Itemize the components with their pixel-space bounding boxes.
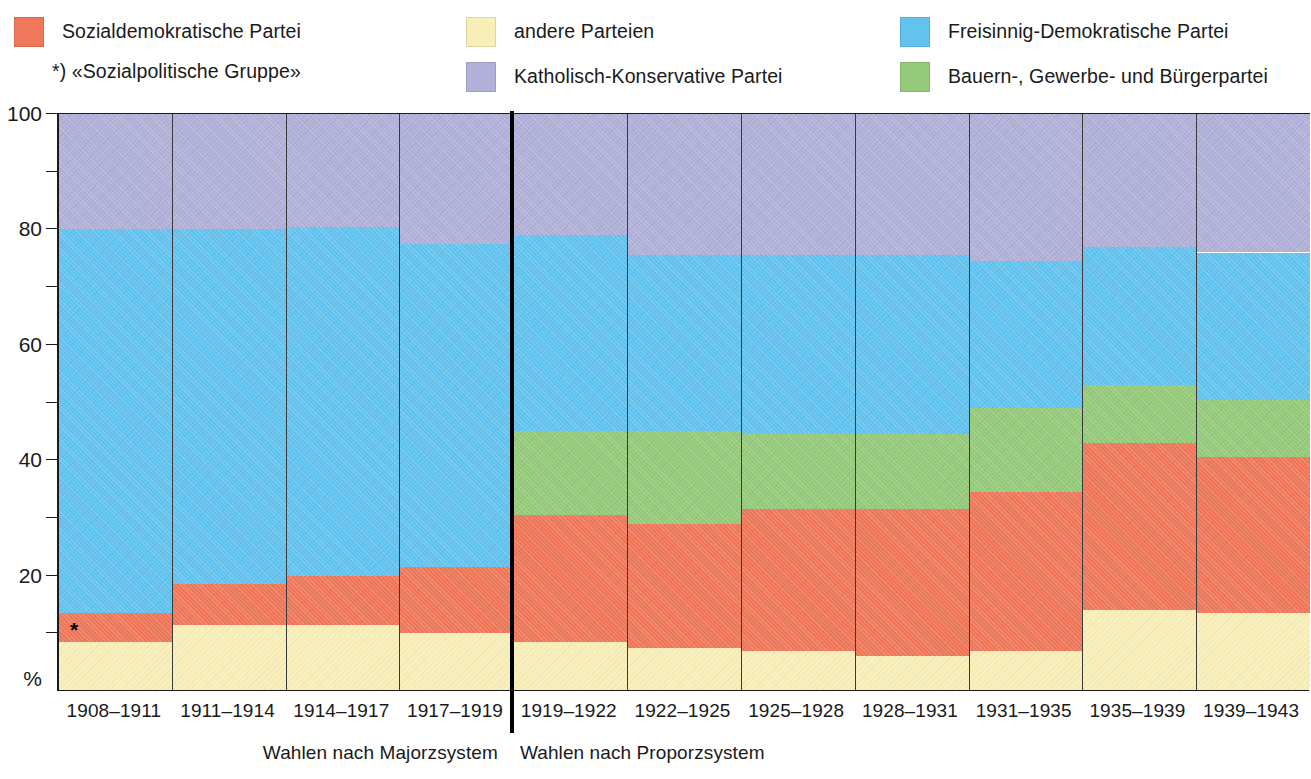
x-tick-label: 1911–1914 [171, 701, 285, 720]
chart-segment [856, 255, 969, 434]
chart-segment [1197, 613, 1310, 691]
y-tick-mark [46, 517, 57, 518]
chart-segment [1197, 114, 1310, 252]
x-tick-label: 1908–1911 [57, 701, 171, 720]
chart-segment [173, 584, 286, 624]
chart-segment [1083, 114, 1196, 247]
x-tick-label: 1931–1935 [967, 701, 1081, 720]
y-tick-label: 40 [0, 449, 42, 470]
y-tick-mark [46, 402, 57, 403]
chart-segment [1197, 253, 1310, 400]
y-tick-label: 20 [0, 565, 42, 586]
legend-label-bgb: Bauern-, Gewerbe- und Bürgerpartei [948, 67, 1268, 87]
chart-segment [628, 648, 741, 691]
legend-label-kk: Katholisch-Konservative Partei [514, 67, 783, 87]
chart-segment [287, 227, 400, 576]
chart-segment [59, 642, 172, 691]
chart-segment [1083, 443, 1196, 610]
chart-segment [628, 255, 741, 431]
chart-segment [970, 261, 1083, 408]
chart-segment [59, 114, 172, 229]
legend-swatch-sp [14, 17, 44, 47]
chart-segment [400, 567, 513, 633]
legend-item-andere-parteien: andere Parteien [466, 17, 654, 47]
y-tick-mark [46, 632, 57, 633]
chart-segment [970, 114, 1083, 261]
legend-swatch-fdp [900, 17, 930, 47]
y-tick-label: 100 [0, 103, 42, 124]
system-label-majorz: Wahlen nach Majorzsystem [263, 743, 510, 762]
chart-segment [970, 408, 1083, 492]
chart-segment [514, 431, 627, 515]
stacked-area-chart: 10080604020% 1908–19111911–19141914–1917… [0, 103, 1311, 779]
legend-item-sozialdemokratische-partei: Sozialdemokratische Partei [14, 17, 301, 47]
chart-segment [1083, 247, 1196, 385]
plot-area [57, 113, 1310, 691]
y-axis-unit-label: % [0, 668, 42, 689]
legend-item-bauern-gewerbe-buergerpartei: Bauern-, Gewerbe- und Bürgerpartei [900, 62, 1268, 92]
chart-segment [173, 114, 286, 229]
y-tick-mark [46, 228, 57, 229]
y-tick-mark [46, 575, 57, 576]
chart-segment [628, 524, 741, 648]
x-tick-label: 1919–1922 [512, 701, 626, 720]
y-tick-mark [46, 113, 57, 114]
star-marker: * [70, 619, 78, 640]
chart-column [287, 114, 401, 691]
y-tick-mark [46, 171, 57, 172]
legend-item-freisinnig-demokratische-partei: Freisinnig-Demokratische Partei [900, 17, 1229, 47]
x-tick-label: 1939–1943 [1194, 701, 1308, 720]
legend-swatch-andere [466, 17, 496, 47]
y-tick-label: 60 [0, 334, 42, 355]
legend-item-katholisch-konservative-partei: Katholisch-Konservative Partei [466, 62, 783, 92]
x-tick-label: 1928–1931 [853, 701, 967, 720]
chart-segment [1083, 385, 1196, 443]
chart-segment [173, 625, 286, 691]
chart-segment [287, 625, 400, 691]
chart-column [628, 114, 742, 691]
legend-swatch-kk [466, 62, 496, 92]
chart-segment [1083, 610, 1196, 691]
chart-segment [742, 651, 855, 691]
chart-segment [1197, 400, 1310, 458]
chart-segment [514, 114, 627, 235]
chart-segment [400, 114, 513, 244]
x-tick-label: 1914–1917 [284, 701, 398, 720]
chart-segment [742, 434, 855, 509]
legend-label-sp: Sozialdemokratische Partei [62, 22, 301, 42]
chart-segment [287, 576, 400, 625]
chart-segment [514, 235, 627, 431]
chart-segment [400, 633, 513, 691]
chart-column [1083, 114, 1197, 691]
chart-column [856, 114, 970, 691]
y-tick-mark [46, 344, 57, 345]
x-tick-label: 1925–1928 [739, 701, 853, 720]
chart-segment [59, 229, 172, 613]
chart-column [173, 114, 287, 691]
legend-footnote: *) «Sozialpolitische Gruppe» [52, 62, 301, 82]
system-divider [510, 111, 514, 733]
chart-legend: Sozialdemokratische Partei *) «Sozialpol… [0, 0, 1311, 103]
chart-segment [1197, 457, 1310, 613]
x-tick-label: 1917–1919 [398, 701, 512, 720]
chart-segment [742, 255, 855, 434]
chart-segment [514, 642, 627, 691]
chart-segment [628, 114, 741, 255]
chart-segment [400, 244, 513, 567]
chart-column [970, 114, 1084, 691]
chart-segment [856, 114, 969, 255]
chart-segment [514, 515, 627, 642]
chart-segment [856, 434, 969, 509]
chart-column [1197, 114, 1310, 691]
legend-label-andere: andere Parteien [514, 22, 654, 42]
legend-swatch-bgb [900, 62, 930, 92]
chart-segment [856, 509, 969, 656]
legend-label-fdp: Freisinnig-Demokratische Partei [948, 22, 1229, 42]
y-tick-label: 80 [0, 218, 42, 239]
plot-columns [59, 114, 1310, 691]
x-tick-label: 1922–1925 [626, 701, 740, 720]
chart-segment [628, 431, 741, 523]
chart-segment [742, 114, 855, 255]
chart-segment [287, 114, 400, 227]
chart-column [742, 114, 856, 691]
